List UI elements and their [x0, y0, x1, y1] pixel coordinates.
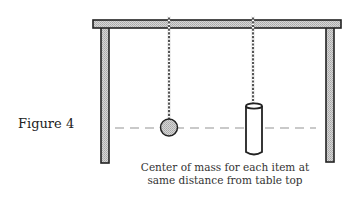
figure-label: Figure 4	[18, 116, 74, 131]
ball-pendulum	[161, 119, 178, 136]
table-leg-left	[101, 27, 109, 163]
table-top	[93, 20, 341, 28]
figure-caption: Center of mass for each item at same dis…	[110, 161, 340, 187]
table-leg-right	[326, 27, 334, 162]
cylinder-pendulum	[246, 103, 262, 154]
caption-line-2: same distance from table top	[110, 174, 340, 187]
caption-line-1: Center of mass for each item at	[110, 161, 340, 174]
